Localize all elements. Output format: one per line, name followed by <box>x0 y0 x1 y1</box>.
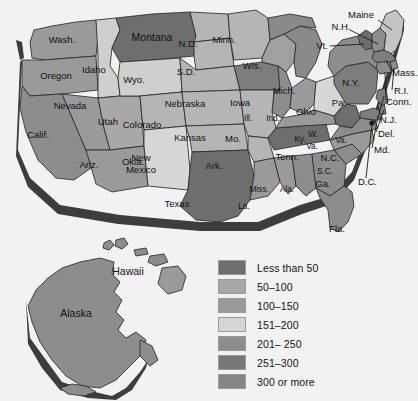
legend-label: 100–150 <box>257 300 299 312</box>
legend-swatch-less-than-50 <box>218 260 246 275</box>
legend-row: Less than 50 <box>218 258 378 277</box>
label-kans: Kansas <box>174 132 206 143</box>
label-alaska: Alaska <box>60 307 92 319</box>
legend-row: 201– 250 <box>218 334 378 353</box>
label-hawaii: Hawaii <box>112 265 144 277</box>
label-ind: Ind. <box>266 114 280 123</box>
legend-row: 151–200 <box>218 315 378 334</box>
label-texas: Texas <box>165 198 190 209</box>
legend-row: 50–100 <box>218 277 378 296</box>
legend-swatch-100-150 <box>218 298 246 313</box>
label-md: Md. <box>374 144 390 155</box>
legend-swatch-300-or-more <box>218 374 246 389</box>
legend-label: 300 or more <box>257 376 315 388</box>
legend-label: 151–200 <box>257 319 299 331</box>
label-nc: N.C. <box>321 152 340 163</box>
label-wash: Wash. <box>49 34 76 45</box>
label-conn: Conn. <box>386 96 411 107</box>
label-colo: Colorado <box>123 119 162 130</box>
label-pa: Pa. <box>332 97 346 108</box>
label-fla: Fla. <box>329 223 345 234</box>
label-iowa: Iowa <box>230 97 251 108</box>
label-nh: N.H. <box>332 21 351 32</box>
label-la: La. <box>238 202 249 211</box>
legend-swatch-151-200 <box>218 317 246 332</box>
label-wva-line1: W. <box>308 130 318 139</box>
label-nd: N.D. <box>179 38 198 49</box>
label-ill: Ill. <box>244 114 252 123</box>
label-mich: Mich. <box>273 85 296 96</box>
label-ohio: Ohio <box>296 106 316 117</box>
legend-row: 251–300 <box>218 353 378 372</box>
label-ny: N.Y. <box>342 77 359 88</box>
label-ga: Ga. <box>315 178 330 189</box>
us-choropleth-map: Wash. Oregon Idaho Montana N.D. Minn. Wi… <box>0 0 418 401</box>
label-idaho: Idaho <box>82 64 106 75</box>
legend-swatch-201-250 <box>218 336 246 351</box>
label-ariz: Ariz. <box>80 159 99 170</box>
legend-swatch-50-100 <box>218 279 246 294</box>
label-mo: Mo. <box>225 133 241 144</box>
legend-label: 201– 250 <box>257 338 302 350</box>
legend-row: 100–150 <box>218 296 378 315</box>
label-mont: Montana <box>132 31 173 43</box>
label-tenn: Tenn. <box>275 151 298 162</box>
label-minn: Minn. <box>212 34 235 45</box>
label-maine: Maine <box>348 9 374 20</box>
label-vt: Vt. <box>316 40 328 51</box>
label-wyo: Wyo. <box>123 74 145 85</box>
label-ky: Ky. <box>294 135 305 144</box>
dc-marker-dot <box>369 120 374 125</box>
label-wva-line2: Va. <box>306 142 318 151</box>
label-va: Va. <box>335 136 347 145</box>
legend-label: 50–100 <box>257 281 293 293</box>
legend-label: Less than 50 <box>257 262 318 274</box>
label-nevada: Nevada <box>54 100 87 111</box>
label-ri: R.I. <box>394 85 409 96</box>
label-sc: S.C. <box>317 167 333 176</box>
label-ark: Ark. <box>206 160 223 171</box>
legend-row: 300 or more <box>218 372 378 391</box>
label-calif: Calif. <box>27 129 49 140</box>
label-dc: D.C. <box>358 176 377 187</box>
label-sd: S.D. <box>177 66 195 77</box>
label-del: Del. <box>378 128 395 139</box>
label-nj: N.J. <box>380 114 397 125</box>
map-legend: Less than 50 50–100 100–150 151–200 201–… <box>218 258 378 391</box>
label-ala: Ala. <box>280 185 294 194</box>
label-nebr: Nebraska <box>165 98 206 109</box>
label-oregon: Oregon <box>40 70 72 81</box>
label-okla: Okla. <box>122 156 144 167</box>
legend-label: 251–300 <box>257 357 299 369</box>
label-utah: Utah <box>98 116 118 127</box>
label-mass: Mass. <box>392 67 417 78</box>
label-miss: Miss. <box>249 185 268 194</box>
legend-swatch-251-300 <box>218 355 246 370</box>
label-wis: Wis. <box>243 60 261 71</box>
